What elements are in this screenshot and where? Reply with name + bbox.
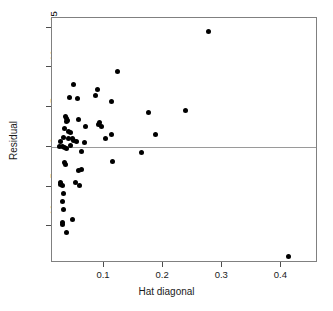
data-point bbox=[83, 124, 88, 129]
data-point bbox=[153, 132, 158, 137]
data-point bbox=[146, 110, 151, 115]
data-point bbox=[64, 230, 69, 235]
data-point bbox=[79, 149, 84, 154]
data-point bbox=[110, 159, 115, 164]
zero-reference-line bbox=[52, 147, 316, 148]
data-point bbox=[95, 87, 100, 92]
x-axis-title: Hat diagonal bbox=[0, 286, 333, 297]
x-tick-label: 0.3 bbox=[215, 270, 228, 280]
x-axis-title-label: Hat diagonal bbox=[138, 286, 194, 297]
x-tick-label: 0.1 bbox=[96, 270, 109, 280]
data-point bbox=[139, 150, 144, 155]
data-point bbox=[103, 136, 108, 141]
data-point bbox=[60, 199, 65, 204]
data-point bbox=[115, 69, 120, 74]
data-point bbox=[74, 139, 79, 144]
data-point bbox=[60, 183, 65, 188]
x-tick-mark bbox=[103, 262, 104, 267]
data-point bbox=[75, 96, 80, 101]
data-point bbox=[68, 130, 73, 135]
data-point bbox=[71, 82, 76, 87]
x-tick-label: 0.2 bbox=[156, 270, 169, 280]
data-point bbox=[76, 117, 81, 122]
x-tick-mark bbox=[221, 262, 222, 267]
data-point bbox=[63, 162, 68, 167]
data-point bbox=[99, 124, 104, 129]
data-point bbox=[60, 222, 65, 227]
data-point bbox=[64, 119, 69, 124]
data-point bbox=[61, 207, 66, 212]
data-point bbox=[206, 29, 211, 34]
data-point bbox=[70, 217, 75, 222]
data-point bbox=[77, 183, 82, 188]
data-point bbox=[61, 191, 66, 196]
data-point bbox=[82, 140, 87, 145]
plot-area bbox=[51, 17, 317, 262]
data-point bbox=[183, 108, 188, 113]
scatter-plot: Residual 151050-5-10 0.10.20.30.4 Hat di… bbox=[0, 0, 333, 311]
data-point bbox=[79, 167, 84, 172]
data-point bbox=[109, 132, 114, 137]
data-point bbox=[93, 93, 98, 98]
x-tick-mark bbox=[280, 262, 281, 267]
x-tick-mark bbox=[162, 262, 163, 267]
data-point bbox=[67, 95, 72, 100]
x-tick-label: 0.4 bbox=[274, 270, 287, 280]
data-point bbox=[286, 254, 291, 259]
data-point bbox=[109, 99, 114, 104]
